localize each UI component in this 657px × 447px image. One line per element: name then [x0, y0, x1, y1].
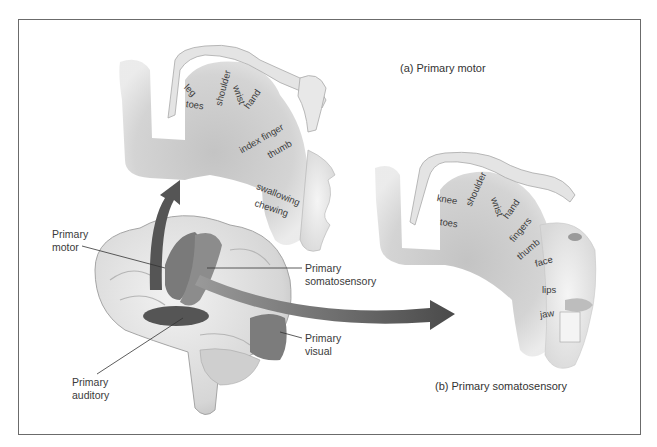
- label-primary-auditory: Primary auditory: [72, 376, 109, 402]
- label-primary-somatosensory: Primary somatosensory: [305, 262, 376, 288]
- caption-primary-somatosensory: (b) Primary somatosensory: [435, 380, 567, 392]
- somato-label-jaw: jaw: [539, 307, 555, 320]
- caption-primary-motor: (a) Primary motor: [400, 62, 486, 74]
- somatosensory-homunculus: [375, 152, 596, 368]
- label-primary-motor: Primary motor: [52, 228, 88, 254]
- brain-illustration: [95, 216, 291, 415]
- somato-label-toes: toes: [439, 216, 458, 229]
- motor-label-toes: toes: [185, 98, 204, 111]
- somato-label-lips: lips: [542, 284, 556, 295]
- primary-visual-region: [250, 314, 287, 360]
- label-primary-visual: Primary visual: [305, 332, 341, 358]
